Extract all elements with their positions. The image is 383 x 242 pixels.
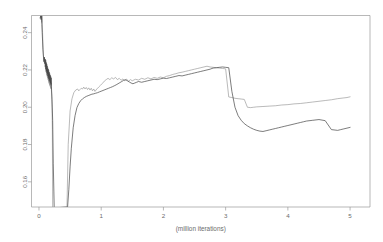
- x-tick-label: 3: [224, 212, 228, 219]
- x-tick-label: 0: [37, 212, 41, 219]
- chart-figure: 0.160.180.200.220.24 012345 (million ite…: [0, 0, 383, 242]
- y-tick-label: 0.22: [21, 63, 28, 76]
- x-axis-title: (million iterations): [176, 225, 226, 233]
- x-tick-label: 4: [286, 212, 290, 219]
- plot-canvas: 0.160.180.200.220.24 012345 (million ite…: [0, 0, 383, 242]
- y-tick-label: 0.16: [21, 175, 28, 188]
- x-tick-label: 1: [99, 212, 103, 219]
- x-tick-label: 5: [348, 212, 352, 219]
- y-tick-label: 0.20: [21, 101, 28, 114]
- x-tick-label: 2: [162, 212, 166, 219]
- y-tick-label: 0.18: [21, 138, 28, 151]
- y-tick-label: 0.24: [21, 26, 28, 39]
